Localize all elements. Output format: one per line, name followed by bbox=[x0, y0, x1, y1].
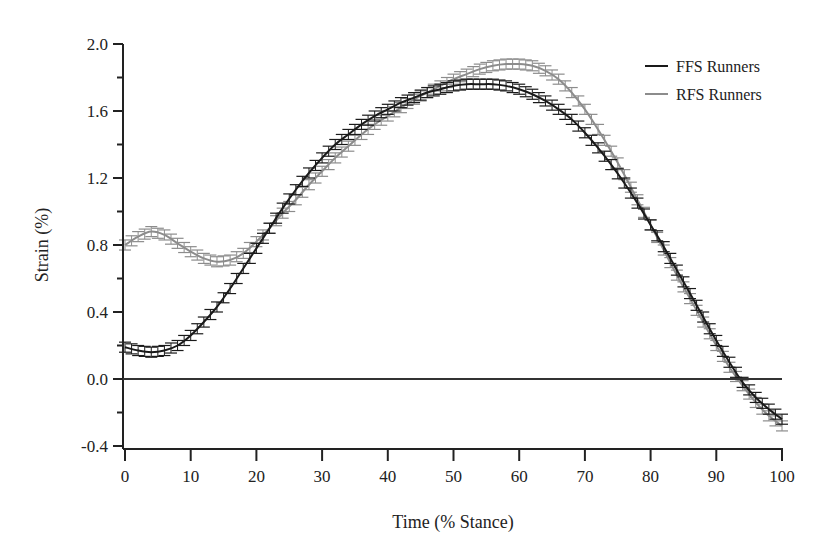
x-tick-label: 20 bbox=[248, 467, 265, 486]
y-tick-label: 0.4 bbox=[87, 303, 109, 322]
x-tick-label: 60 bbox=[511, 467, 528, 486]
series-line bbox=[125, 84, 782, 419]
x-tick-label: 0 bbox=[121, 467, 130, 486]
y-tick-label: -0.4 bbox=[81, 437, 108, 456]
strain-line-chart: -0.40.00.40.81.21.62.0010203040506070809… bbox=[0, 0, 827, 552]
x-tick-label: 90 bbox=[708, 467, 725, 486]
legend: FFS Runners RFS Runners bbox=[645, 58, 762, 103]
x-tick-label: 70 bbox=[576, 467, 593, 486]
y-tick-label: 1.2 bbox=[87, 169, 108, 188]
y-axis-title: Strain (%) bbox=[32, 208, 53, 282]
legend-label-ffs: FFS Runners bbox=[676, 58, 760, 75]
x-tick-label: 40 bbox=[379, 467, 396, 486]
series-line bbox=[125, 64, 782, 426]
x-tick-label: 30 bbox=[314, 467, 331, 486]
x-axis-title: Time (% Stance) bbox=[392, 512, 513, 533]
y-tick-label: 0.8 bbox=[87, 236, 108, 255]
x-tick-label: 50 bbox=[445, 467, 462, 486]
series-rfs-runners bbox=[119, 59, 788, 431]
y-tick-label: 1.6 bbox=[87, 102, 108, 121]
y-tick-label: 0.0 bbox=[87, 370, 108, 389]
x-tick-label: 80 bbox=[642, 467, 659, 486]
plot-series bbox=[119, 59, 788, 431]
series-ffs-runners bbox=[119, 79, 788, 424]
x-tick-label: 10 bbox=[182, 467, 199, 486]
y-tick-label: 2.0 bbox=[87, 35, 108, 54]
legend-label-rfs: RFS Runners bbox=[676, 86, 762, 103]
x-tick-label: 100 bbox=[769, 467, 795, 486]
